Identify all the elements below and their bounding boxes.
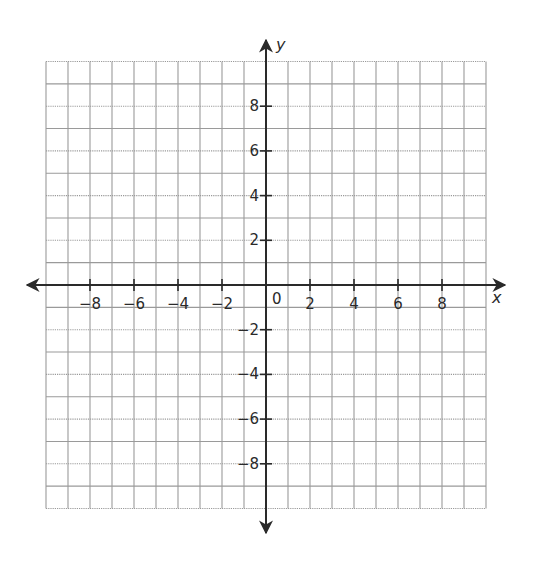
x-tick-label: −2 [211, 295, 233, 313]
y-axis-label: y [275, 35, 286, 54]
coordinate-plane: −8−6−4−224688642−2−4−6−8 x y 0 [0, 0, 539, 564]
x-tick-label: 8 [437, 295, 447, 313]
y-tick-label: −8 [237, 455, 259, 473]
x-tick-label: −6 [123, 295, 145, 313]
y-tick-label: 4 [249, 187, 259, 205]
y-tick-label: 2 [249, 231, 259, 249]
y-tick-label: 6 [249, 142, 259, 160]
x-tick-label: 4 [349, 295, 359, 313]
y-tick-label: 8 [249, 97, 259, 115]
origin-label: 0 [272, 290, 282, 308]
x-tick-label: 6 [393, 295, 403, 313]
x-axis-label: x [491, 288, 502, 307]
x-tick-label: −8 [79, 295, 101, 313]
y-tick-label: −4 [237, 365, 259, 383]
x-tick-label: 2 [305, 295, 315, 313]
y-tick-label: −2 [237, 321, 259, 339]
x-tick-label: −4 [167, 295, 189, 313]
y-tick-label: −6 [237, 410, 259, 428]
